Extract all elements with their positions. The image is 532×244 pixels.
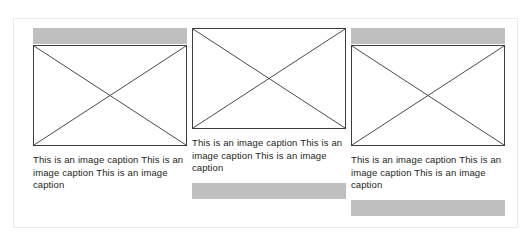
column-grid: This is an image caption This is an imag… [33, 28, 505, 224]
image-caption-3: This is an image caption This is an imag… [351, 154, 505, 192]
placeholder-bar-bottom-3 [351, 200, 505, 216]
image-caption-1: This is an image caption This is an imag… [33, 154, 187, 192]
image-placeholder-1[interactable] [33, 45, 187, 146]
crossed-box-icon [34, 46, 186, 145]
placeholder-bar-top-1 [33, 28, 187, 44]
image-placeholder-2[interactable] [192, 28, 346, 129]
crossed-box-icon [352, 46, 504, 145]
content-panel: This is an image caption This is an imag… [13, 18, 518, 228]
media-column-1: This is an image caption This is an imag… [33, 28, 187, 192]
page-root: This is an image caption This is an imag… [0, 0, 532, 244]
image-placeholder-3[interactable] [351, 45, 505, 146]
placeholder-bar-bottom-2 [192, 183, 346, 199]
crossed-box-icon [193, 29, 345, 128]
media-column-3: This is an image caption This is an imag… [351, 28, 505, 216]
image-caption-2: This is an image caption This is an imag… [192, 137, 346, 175]
media-column-2: This is an image caption This is an imag… [192, 28, 346, 199]
placeholder-bar-top-3 [351, 28, 505, 44]
